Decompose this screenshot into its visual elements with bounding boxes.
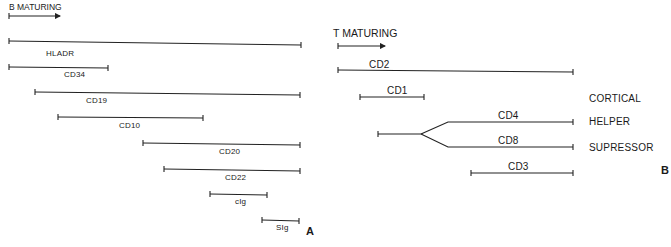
panel-b-letter: B — [661, 165, 669, 176]
panel-a-letter: A — [306, 226, 314, 237]
cortical-stage-label: CORTICAL — [589, 94, 641, 104]
cd1-label: CD1 — [387, 86, 408, 96]
hladr-bar — [9, 38, 301, 48]
cd10-label: CD10 — [119, 122, 140, 130]
b-maturing-arrow — [9, 13, 60, 19]
cd34-label: CD34 — [64, 71, 85, 79]
cd22-label: CD22 — [225, 174, 246, 182]
cd2-label: CD2 — [369, 60, 390, 70]
b-maturing-title: B MATURING — [9, 3, 62, 12]
maturation-diagram: B MATURING HLADR CD34 CD19 CD10 CD20 CD2… — [0, 0, 671, 247]
helper-stage-label: HELPER — [589, 117, 630, 127]
hladr-label: HLADR — [46, 50, 74, 58]
cd4-cd8-branch — [378, 119, 573, 150]
cig-label: cIg — [235, 198, 246, 206]
supressor-stage-label: SUPRESSOR — [589, 143, 654, 153]
t-maturing-title: T MATURING — [333, 28, 397, 39]
cd3-label: CD3 — [508, 162, 529, 172]
cd34-bar — [9, 64, 108, 71]
cd19-label: CD19 — [86, 97, 107, 105]
cd10-bar — [58, 114, 203, 121]
cd8-label: CD8 — [498, 136, 519, 146]
sig-label: SIg — [276, 224, 289, 232]
cd4-label: CD4 — [498, 111, 519, 121]
cd19-bar — [35, 89, 300, 98]
cd20-label: CD20 — [219, 148, 240, 156]
t-maturing-arrow — [338, 43, 385, 49]
